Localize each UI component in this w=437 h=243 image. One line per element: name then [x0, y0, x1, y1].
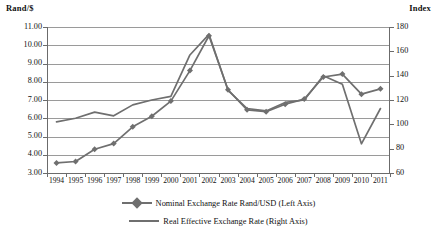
right-axis-title: Index: [409, 3, 431, 13]
x-axis-tick-mark: [314, 173, 315, 177]
left-axis-tick-label: 11.00: [6, 22, 42, 31]
right-axis-tick-label: 160: [396, 46, 432, 55]
left-axis-tick-mark: [43, 100, 47, 101]
left-axis-tick-mark: [43, 155, 47, 156]
x-axis-tick-mark: [66, 173, 67, 177]
x-axis-tick-mark: [390, 173, 391, 177]
right-axis-tick-mark: [390, 27, 394, 28]
x-axis-tick-mark: [295, 173, 296, 177]
x-axis-tick-mark: [85, 173, 86, 177]
left-axis-tick-mark: [43, 64, 47, 65]
legend-item-real: Real Effective Exchange Rate (Right Axis…: [0, 212, 437, 230]
x-axis-tick-mark: [142, 173, 143, 177]
plot-area: [47, 27, 390, 173]
x-axis-tick-mark: [371, 173, 372, 177]
left-axis-tick-label: 6.00: [6, 113, 42, 122]
right-axis-tick-mark: [390, 100, 394, 101]
left-axis-tick-label: 8.00: [6, 76, 42, 85]
legend-item-nominal: Nominal Exchange Rate Rand/USD (Left Axi…: [0, 194, 437, 212]
left-axis-tick-label: 9.00: [6, 58, 42, 67]
right-axis-tick-mark: [390, 124, 394, 125]
left-axis-title: Rand/$: [6, 3, 34, 13]
right-axis-tick-mark: [390, 149, 394, 150]
left-axis-tick-label: 7.00: [6, 95, 42, 104]
right-axis-tick-label: 180: [396, 22, 432, 31]
legend-marker-line-icon: [129, 215, 159, 227]
right-axis-tick-label: 100: [396, 119, 432, 128]
right-axis-tick-label: 120: [396, 95, 432, 104]
x-axis-tick-label: 2011: [365, 176, 395, 185]
legend-marker-diamond-icon: [122, 197, 152, 209]
chart-legend: Nominal Exchange Rate Rand/USD (Left Axi…: [0, 194, 437, 230]
x-axis-tick-mark: [161, 173, 162, 177]
left-axis-tick-mark: [43, 137, 47, 138]
left-axis-tick-label: 4.00: [6, 149, 42, 158]
x-axis-tick-mark: [219, 173, 220, 177]
x-axis-tick-mark: [257, 173, 258, 177]
right-axis-tick-label: 140: [396, 70, 432, 79]
left-axis-tick-mark: [43, 45, 47, 46]
x-axis-tick-mark: [238, 173, 239, 177]
x-axis-tick-mark: [123, 173, 124, 177]
left-axis-tick-label: 10.00: [6, 40, 42, 49]
x-axis-tick-mark: [352, 173, 353, 177]
exchange-rate-chart: Rand/$ Index 3.004.005.006.007.008.009.0…: [0, 0, 437, 243]
left-axis-tick-mark: [43, 118, 47, 119]
x-axis-tick-mark: [333, 173, 334, 177]
left-axis-tick-mark: [43, 82, 47, 83]
right-axis-tick-mark: [390, 51, 394, 52]
x-axis-tick-mark: [276, 173, 277, 177]
right-axis-tick-label: 60: [396, 168, 432, 177]
x-axis-tick-mark: [47, 173, 48, 177]
right-axis-tick-mark: [390, 76, 394, 77]
right-axis-tick-label: 80: [396, 143, 432, 152]
left-axis-tick-label: 5.00: [6, 131, 42, 140]
legend-label-real: Real Effective Exchange Rate (Right Axis…: [163, 217, 307, 226]
legend-label-nominal: Nominal Exchange Rate Rand/USD (Left Axi…: [156, 199, 316, 208]
x-axis-tick-mark: [104, 173, 105, 177]
x-axis-tick-mark: [180, 173, 181, 177]
left-axis-tick-mark: [43, 27, 47, 28]
x-axis-tick-mark: [199, 173, 200, 177]
left-axis-tick-label: 3.00: [6, 168, 42, 177]
